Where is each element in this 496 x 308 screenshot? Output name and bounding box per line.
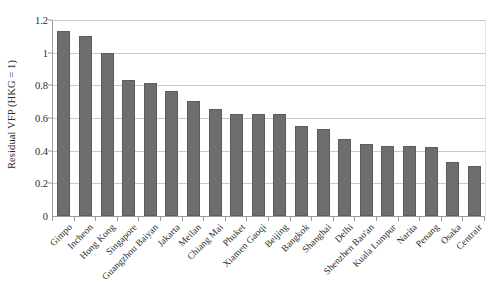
bar: [209, 109, 222, 216]
x-tick-mark: [182, 217, 183, 221]
y-tick-label: 0.6: [35, 113, 48, 124]
bar-chart: Residual VFP (HKG = 1) 00.20.40.60.811.2…: [0, 0, 496, 308]
y-axis-title: Residual VFP (HKG = 1): [0, 0, 24, 228]
x-tick-mark: [117, 217, 118, 221]
y-axis-title-text: Residual VFP (HKG = 1): [7, 59, 18, 168]
x-tick-mark: [160, 217, 161, 221]
bar: [295, 126, 308, 216]
bar: [403, 146, 416, 216]
bar: [101, 53, 114, 216]
x-tick-mark: [268, 217, 269, 221]
bar: [252, 114, 265, 216]
x-tick-mark: [398, 217, 399, 221]
y-tick-label: 1.2: [35, 15, 48, 26]
bar: [381, 146, 394, 216]
y-tick-label: 0.2: [35, 178, 48, 189]
bar: [273, 114, 286, 216]
plot-right-border: [485, 20, 486, 216]
x-tick-mark: [376, 217, 377, 221]
bar: [360, 144, 373, 216]
x-tick-mark: [138, 217, 139, 221]
bar: [144, 83, 157, 216]
bar: [446, 162, 459, 216]
bar: [187, 101, 200, 216]
bar: [338, 139, 351, 216]
x-tick-mark: [441, 217, 442, 221]
x-tick-mark: [95, 217, 96, 221]
y-tick-label: 0: [43, 211, 48, 222]
x-tick-mark: [462, 217, 463, 221]
bar: [165, 91, 178, 216]
bar: [122, 80, 135, 216]
x-tick-mark: [354, 217, 355, 221]
plot-area: [52, 20, 485, 217]
x-tick-mark: [74, 217, 75, 221]
x-tick-mark: [52, 217, 53, 221]
x-tick-mark: [225, 217, 226, 221]
x-tick-mark: [246, 217, 247, 221]
x-tick-mark: [311, 217, 312, 221]
bar: [57, 31, 70, 216]
x-tick-mark: [290, 217, 291, 221]
y-axis-tick-labels: 00.20.40.60.811.2: [22, 14, 52, 222]
bar: [79, 36, 92, 216]
bars-container: [53, 20, 485, 216]
x-axis-category-labels: GimpoIncheonHong KongSingaporeGuangzhou …: [0, 222, 496, 308]
y-tick-label: 0.4: [35, 145, 48, 156]
x-tick-mark: [419, 217, 420, 221]
x-tick-mark: [333, 217, 334, 221]
x-tick-mark: [484, 217, 485, 221]
x-tick-mark: [203, 217, 204, 221]
x-axis-label: Jakarta: [155, 222, 182, 249]
x-axis-label: Penang: [414, 222, 441, 249]
bar: [317, 129, 330, 216]
bar: [468, 166, 481, 216]
bar: [230, 114, 243, 216]
y-tick-label: 0.8: [35, 80, 48, 91]
bar: [425, 147, 438, 216]
